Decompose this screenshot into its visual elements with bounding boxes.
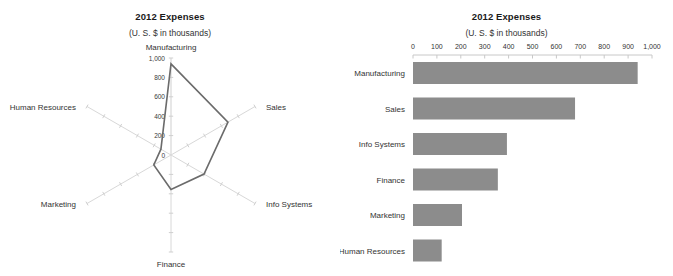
bar-manufacturing xyxy=(413,62,638,84)
radar-spoke-4 xyxy=(87,155,171,204)
bar-finance xyxy=(413,169,498,191)
bar-row: Marketing xyxy=(370,204,462,226)
bar-axis-tick-label: 600 xyxy=(551,43,563,50)
bar-axis-tick-label: 0 xyxy=(411,43,415,50)
bar-marketing xyxy=(413,204,462,226)
bar-axis-tick-label: 500 xyxy=(527,43,539,50)
radar-category-label-human-resources: Human Resources xyxy=(10,103,76,112)
bar-row: Manufacturing xyxy=(354,62,637,84)
bar-row: Info Systems xyxy=(359,133,507,155)
bar-human-resources xyxy=(413,240,442,262)
bar-sales xyxy=(413,98,575,120)
radar-category-label-sales: Sales xyxy=(266,103,286,112)
chart-page: 2012 Expenses (U. S. $ in thousands) 020… xyxy=(0,0,673,276)
radar-radial-tick-label: 600 xyxy=(154,93,165,100)
bar-category-label-sales: Sales xyxy=(385,105,405,114)
bar-row: Finance xyxy=(377,169,498,191)
bar-row: Sales xyxy=(385,98,575,120)
radar-radial-tick-label: 1,000 xyxy=(149,55,166,62)
radar-radial-tick-label: 800 xyxy=(154,74,165,81)
radar-category-label-manufacturing: Manufacturing xyxy=(146,43,197,52)
radar-radial-tick-label: 0 xyxy=(161,152,165,159)
bar-axis-tick-label: 200 xyxy=(455,43,467,50)
bar-info-systems xyxy=(413,133,507,155)
radar-spoke-1 xyxy=(171,107,255,156)
bar-axis-tick-label: 700 xyxy=(574,43,586,50)
radar-radial-tick-label: 200 xyxy=(154,132,165,139)
bar-category-label-marketing: Marketing xyxy=(370,211,405,220)
bar-axis-tick-label: 400 xyxy=(503,43,515,50)
bar-category-label-human-resources: Human Resources xyxy=(340,247,405,256)
bar-category-label-manufacturing: Manufacturing xyxy=(354,69,405,78)
radar-chart-panel: 2012 Expenses (U. S. $ in thousands) 020… xyxy=(0,0,340,276)
radar-category-label-marketing: Marketing xyxy=(41,200,76,209)
bar-category-label-finance: Finance xyxy=(377,176,406,185)
bar-axis-tick-label: 300 xyxy=(479,43,491,50)
bar-category-label-info-systems: Info Systems xyxy=(359,140,405,149)
radar-chart-plot: 02004006008001,000ManufacturingSalesInfo… xyxy=(0,0,340,276)
radar-radial-tick-label: 400 xyxy=(154,113,165,120)
radar-spoke-2 xyxy=(171,155,255,204)
bar-chart-plot: 01002003004005006007008009001,000Manufac… xyxy=(340,0,673,276)
bar-axis-tick-label: 1,000 xyxy=(643,43,661,50)
radar-category-label-info-systems: Info Systems xyxy=(266,200,312,209)
radar-category-label-finance: Finance xyxy=(157,260,186,269)
bar-row: Human Resources xyxy=(340,240,442,262)
radar-series-polygon xyxy=(154,64,228,190)
bar-axis-tick-label: 100 xyxy=(431,43,443,50)
bar-axis-tick-label: 800 xyxy=(598,43,610,50)
bar-chart-panel: 2012 Expenses (U. S. $ in thousands) 010… xyxy=(340,0,673,276)
bar-axis-tick-label: 900 xyxy=(622,43,634,50)
